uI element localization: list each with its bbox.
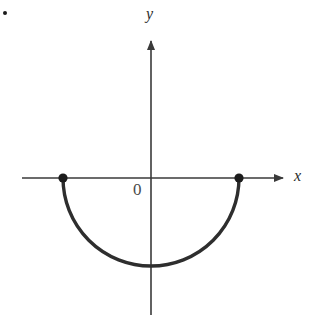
y-axis-label: y	[146, 6, 153, 22]
plot-canvas	[0, 0, 311, 315]
endpoint-left-marker	[58, 173, 67, 182]
x-axis-label: x	[294, 168, 301, 184]
origin-label: 0	[133, 181, 142, 198]
semicircle-figure: y x 0	[0, 0, 311, 315]
endpoint-right-marker	[234, 173, 243, 182]
